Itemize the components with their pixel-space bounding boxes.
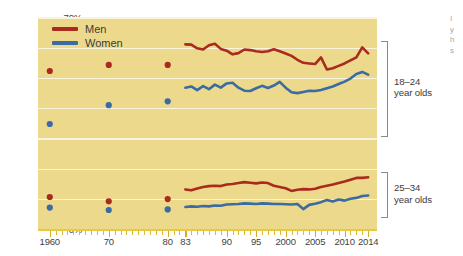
x-tick-1997 (268, 231, 269, 235)
x-tick-1961 (56, 231, 57, 235)
x-tick-label-80: 80 (163, 236, 173, 247)
x-tick-1992 (238, 231, 239, 235)
marker-women-1970 (106, 102, 112, 108)
x-tick-1979 (162, 231, 163, 235)
marker-men-1970 (106, 62, 112, 68)
x-tick-1968 (97, 231, 98, 235)
x-tick-label-70: 70 (104, 236, 114, 247)
x-tick-1998 (274, 231, 275, 235)
line-men-1824 (185, 44, 368, 70)
cropped-text-line-2: y (450, 25, 463, 36)
x-tick-label-2014: 2014 (358, 236, 378, 247)
x-tick-1982 (179, 231, 180, 235)
x-tick-2006 (321, 231, 322, 235)
x-tick-label-2010: 2010 (334, 236, 354, 247)
marker-women-1980 (165, 206, 171, 212)
x-tick-label-95: 95 (251, 236, 261, 247)
x-tick-1994 (250, 231, 251, 235)
x-tick-2012 (356, 231, 357, 235)
x-tick-1965 (79, 231, 80, 235)
x-tick-1971 (115, 231, 116, 235)
x-tick-1969 (103, 231, 104, 235)
x-tick-1962 (62, 231, 63, 235)
x-tick-1978 (156, 231, 157, 235)
x-tick-1972 (121, 231, 122, 235)
x-tick-2004 (309, 231, 310, 235)
label-group-18-24: 18–24 year olds (394, 76, 432, 99)
x-tick-2008 (333, 231, 334, 235)
cropped-text-line-4: s (450, 46, 463, 57)
x-tick-1989 (221, 231, 222, 235)
x-tick-2009 (339, 231, 340, 235)
chart-figure: 0%10%20%30%40%50%60%70% MenWomen 1960708… (0, 0, 463, 256)
marker-men-1960 (47, 68, 53, 74)
x-tick-label-1960: 1960 (40, 236, 60, 247)
cropped-sidebar-text: I y h s (450, 14, 463, 64)
cropped-text-line-1: I (450, 14, 463, 25)
x-tick-1975 (138, 231, 139, 235)
x-tick-1993 (244, 231, 245, 235)
x-tick-1964 (73, 231, 74, 235)
x-tick-2003 (303, 231, 304, 235)
marker-women-1980 (165, 98, 171, 104)
marker-men-1980 (165, 62, 171, 68)
x-tick-label-2005: 2005 (305, 236, 325, 247)
cropped-text-line-3: h (450, 35, 463, 46)
x-axis (38, 230, 377, 237)
x-tick-1985 (197, 231, 198, 235)
x-tick-2011 (350, 231, 351, 235)
x-tick-1976 (144, 231, 145, 235)
line-women-2534 (185, 195, 368, 209)
x-tick-1977 (150, 231, 151, 235)
line-women-1824 (185, 72, 368, 93)
x-tick-2007 (327, 231, 328, 235)
label-group-25-34: 25–34 year olds (394, 182, 432, 205)
x-tick-2002 (297, 231, 298, 235)
x-tick-1984 (191, 231, 192, 235)
x-tick-label-83: 83 (180, 236, 190, 247)
bracket-group-18-24 (381, 41, 388, 137)
x-tick-1987 (209, 231, 210, 235)
marker-men-1970 (106, 198, 112, 204)
x-tick-1988 (215, 231, 216, 235)
x-tick-1973 (126, 231, 127, 235)
x-tick-2013 (362, 231, 363, 235)
x-tick-1974 (132, 231, 133, 235)
x-tick-1981 (174, 231, 175, 235)
x-tick-1986 (203, 231, 204, 235)
x-tick-1996 (262, 231, 263, 235)
x-tick-2001 (292, 231, 293, 235)
marker-men-1980 (165, 196, 171, 202)
marker-women-1970 (106, 207, 112, 213)
x-tick-1963 (67, 231, 68, 235)
data-series-layer (38, 18, 377, 230)
bracket-group-25-34 (381, 172, 388, 218)
x-tick-1991 (233, 231, 234, 235)
marker-men-1960 (47, 194, 53, 200)
marker-women-1960 (47, 204, 53, 210)
x-tick-1967 (91, 231, 92, 235)
x-tick-label-90: 90 (222, 236, 232, 247)
marker-women-1960 (47, 121, 53, 127)
x-tick-1966 (85, 231, 86, 235)
line-men-2534 (185, 177, 368, 191)
x-tick-label-2000: 2000 (275, 236, 295, 247)
x-tick-1999 (280, 231, 281, 235)
